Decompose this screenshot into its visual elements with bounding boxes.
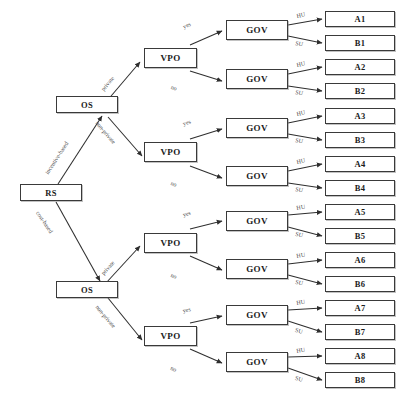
edge-gov-2-to-b2 xyxy=(288,86,322,91)
edge-gov-4-to-a4 xyxy=(288,164,322,171)
node-leaf-a1[interactable]: A1 xyxy=(325,11,395,27)
node-leaf-a4[interactable]: A4 xyxy=(325,156,395,172)
edge-rs-to-os-bottom xyxy=(56,202,100,281)
edge-vpo-4-to-gov-7 xyxy=(190,316,222,323)
edge-os-bottom-to-vpo-4 xyxy=(108,298,142,340)
edge-gov-3-to-b3 xyxy=(288,134,322,140)
node-leaf-b4[interactable]: B4 xyxy=(325,180,395,196)
edge-gov-7-to-a7 xyxy=(288,308,322,310)
edge-vpo-3-to-gov-6 xyxy=(190,256,222,270)
node-rs[interactable]: RS xyxy=(20,184,82,201)
node-leaf-a7[interactable]: A7 xyxy=(325,300,395,316)
node-gov-6[interactable]: GOV xyxy=(226,259,288,279)
node-leaf-b1[interactable]: B1 xyxy=(325,35,395,51)
edge-label-su-3: SU xyxy=(295,137,304,144)
node-os-bottom[interactable]: OS xyxy=(56,281,118,298)
edge-gov-3-to-a3 xyxy=(288,116,322,123)
node-leaf-a8[interactable]: A8 xyxy=(325,348,395,364)
node-leaf-b6[interactable]: B6 xyxy=(325,276,395,292)
node-gov-8[interactable]: GOV xyxy=(226,352,288,372)
edge-vpo-4-to-gov-8 xyxy=(190,349,222,363)
node-os-top[interactable]: OS xyxy=(56,96,118,113)
node-leaf-a5[interactable]: A5 xyxy=(325,204,395,220)
edge-vpo-1-to-gov-2 xyxy=(190,71,222,81)
node-leaf-a2[interactable]: A2 xyxy=(325,59,395,75)
edge-label-su-4: SU xyxy=(295,186,304,193)
edge-gov-5-to-a5 xyxy=(288,212,322,215)
node-leaf-b8[interactable]: B8 xyxy=(325,372,395,388)
edge-gov-1-to-b1 xyxy=(288,36,322,43)
edge-gov-1-to-a1 xyxy=(288,19,322,25)
node-leaf-b3[interactable]: B3 xyxy=(325,132,395,148)
edge-vpo-2-to-gov-3 xyxy=(190,129,222,139)
diagram-canvas: RS OS OS VPO VPO VPO VPO GOV GOV GOV GOV… xyxy=(0,0,406,403)
node-leaf-b7[interactable]: B7 xyxy=(325,324,395,340)
edge-vpo-2-to-gov-4 xyxy=(190,166,222,178)
edge-gov-2-to-a2 xyxy=(288,67,322,74)
node-gov-4[interactable]: GOV xyxy=(226,166,288,186)
edge-gov-8-to-a8 xyxy=(288,356,322,357)
node-gov-5[interactable]: GOV xyxy=(226,211,288,231)
node-gov-7[interactable]: GOV xyxy=(226,305,288,325)
node-leaf-a6[interactable]: A6 xyxy=(325,252,395,268)
node-leaf-a3[interactable]: A3 xyxy=(325,108,395,124)
edge-gov-8-to-b8 xyxy=(288,368,322,380)
edge-gov-6-to-b6 xyxy=(288,275,322,284)
edge-vpo-1-to-gov-1 xyxy=(190,31,222,45)
node-leaf-b5[interactable]: B5 xyxy=(325,228,395,244)
edge-gov-5-to-b5 xyxy=(288,227,322,236)
edge-label-su-1: SU xyxy=(295,40,304,47)
node-gov-2[interactable]: GOV xyxy=(226,69,288,89)
edge-gov-4-to-b4 xyxy=(288,183,322,188)
edge-vpo-3-to-gov-5 xyxy=(190,221,222,229)
node-vpo-1[interactable]: VPO xyxy=(144,48,197,68)
node-gov-3[interactable]: GOV xyxy=(226,118,288,138)
edge-label-su-2: SU xyxy=(295,89,304,96)
node-vpo-4[interactable]: VPO xyxy=(144,326,197,346)
edge-gov-7-to-b7 xyxy=(288,321,322,332)
edge-gov-6-to-a6 xyxy=(288,260,322,264)
node-vpo-3[interactable]: VPO xyxy=(144,233,197,253)
node-gov-1[interactable]: GOV xyxy=(226,20,288,40)
node-vpo-2[interactable]: VPO xyxy=(144,142,197,162)
node-leaf-b2[interactable]: B2 xyxy=(325,83,395,99)
